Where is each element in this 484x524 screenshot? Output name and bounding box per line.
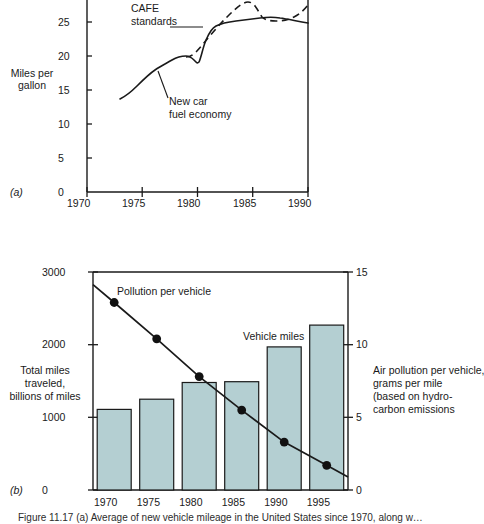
chart-b-left-ytick-3000: 3000	[42, 266, 86, 278]
chart-b-left-ytick-0: 0	[42, 484, 86, 496]
bar-1975	[140, 399, 174, 490]
chart-b-xtick-1985: 1985	[222, 496, 262, 508]
chart-b-right-ylabel-line2: grams per mile	[373, 377, 442, 390]
chart-b-left-ylabel-line1: Total miles	[0, 364, 90, 377]
annotation-vehicle-miles: Vehicle miles	[243, 330, 304, 343]
chart-b-xtick-1990: 1990	[264, 496, 304, 508]
chart-b-right-ylabel-line4: carbon emissions	[373, 403, 455, 416]
chart-b-right-ylabel-line3: (based on hydro-	[373, 390, 452, 403]
data-point-1975	[152, 334, 161, 343]
data-point-1970	[110, 298, 119, 307]
data-point-1980	[195, 372, 204, 381]
chart-b-right-ytick-5: 5	[356, 411, 362, 423]
chart-b-right-ytick-10: 10	[356, 338, 368, 350]
chart-b-xtick-1995: 1995	[307, 496, 347, 508]
chart-b-xtick-1970: 1970	[94, 496, 134, 508]
bar-1990	[267, 347, 301, 490]
chart-b-xtick-1980: 1980	[179, 496, 219, 508]
chart-b-bars	[97, 325, 344, 490]
chart-b-right-ytick-0: 0	[356, 484, 362, 496]
panel-tag-b: (b)	[10, 484, 23, 496]
chart-b-left-ylabel-line3: billions of miles	[0, 390, 90, 403]
bar-1980	[182, 383, 216, 491]
data-point-1990	[280, 438, 289, 447]
chart-b-right-ylabel-line1: Air pollution per vehicle,	[373, 364, 484, 377]
chart-b-left-ylabel-line2: traveled,	[0, 377, 90, 390]
data-point-1995	[322, 461, 331, 470]
annotation-pollution-per-vehicle: Pollution per vehicle	[117, 285, 211, 298]
bar-1985	[225, 382, 259, 490]
bar-1970	[97, 409, 131, 490]
chart-b-xtick-1975: 1975	[137, 496, 177, 508]
figure-caption: Figure 11.17 (a) Average of new vehicle …	[18, 512, 478, 524]
chart-b-right-ytick-15: 15	[356, 266, 368, 278]
data-point-1985	[237, 406, 246, 415]
chart-b-left-ytick-2000: 2000	[42, 338, 86, 350]
chart-b-left-ytick-1000: 1000	[42, 411, 86, 423]
